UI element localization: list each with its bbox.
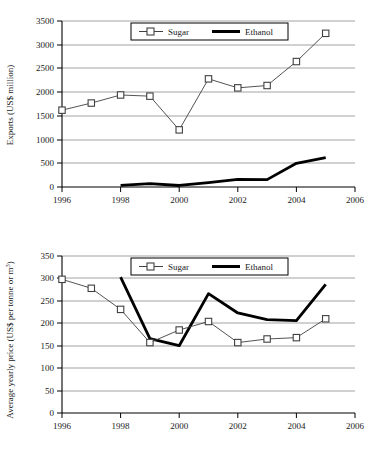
exports-series-sugar: [59, 30, 329, 133]
series-line-sugar: [62, 279, 326, 342]
exports-ytick-label-1000: 1000: [36, 135, 55, 145]
exports-legend: Sugar Ethanol: [131, 23, 288, 40]
exports-ytick-label-0: 0: [50, 182, 55, 192]
exports-xtick-label-2002: 2002: [229, 195, 247, 205]
exports-ytick-label-2000: 2000: [36, 87, 55, 97]
data-point-marker: [235, 85, 241, 91]
price-xtick-label-2000: 2000: [170, 421, 189, 431]
price-series-sugar: [59, 276, 329, 346]
exports-gridlines: [62, 21, 355, 163]
figure-two-line-charts: Exports (US$ million): [0, 0, 373, 463]
price-xtick-label-2004: 2004: [287, 421, 306, 431]
price-ytick-label-250: 250: [41, 296, 55, 306]
price-ytick-label-0: 0: [50, 408, 55, 418]
exports-series-ethanol: [121, 158, 326, 186]
exports-ytick-label-500: 500: [41, 158, 55, 168]
data-point-marker: [293, 334, 299, 340]
chart-price: Average yearly price (US$ per tonne or m…: [0, 232, 373, 463]
price-legend-ethanol-label: Ethanol: [245, 262, 273, 272]
data-point-marker: [147, 339, 153, 345]
price-legend-sugar-label: Sugar: [168, 262, 189, 272]
price-xtick-label-1996: 1996: [53, 421, 72, 431]
data-point-marker: [117, 92, 123, 98]
exports-chart-svg: Exports (US$ million): [0, 0, 373, 226]
series-line-ethanol: [121, 158, 326, 186]
data-point-marker: [205, 318, 211, 324]
exports-ytick-label-2500: 2500: [36, 63, 55, 73]
price-xtick-label-1998: 1998: [112, 421, 131, 431]
data-point-marker: [293, 58, 299, 64]
exports-xtick-label-2000: 2000: [170, 195, 189, 205]
data-point-marker: [176, 327, 182, 333]
data-point-marker: [323, 316, 329, 322]
exports-xtick-label-1998: 1998: [112, 195, 131, 205]
price-xtick-label-2006: 2006: [346, 421, 365, 431]
data-point-marker: [323, 30, 329, 36]
data-point-marker: [264, 82, 270, 88]
data-point-marker: [264, 336, 270, 342]
exports-x-ticks: [62, 187, 355, 192]
exports-xtick-label-1996: 1996: [53, 195, 72, 205]
data-point-marker: [176, 127, 182, 133]
exports-ytick-label-1500: 1500: [36, 111, 55, 121]
price-ytick-label-150: 150: [41, 341, 55, 351]
price-y-axis-title-group: Average yearly price (US$ per tonne or m…: [4, 261, 15, 418]
price-y-axis-title-close: ): [5, 261, 15, 264]
price-x-ticks: [62, 413, 355, 418]
exports-legend-sugar-label: Sugar: [168, 27, 189, 37]
price-legend-sugar-marker: [147, 263, 154, 270]
chart-exports: Exports (US$ million): [0, 0, 373, 226]
data-point-marker: [88, 285, 94, 291]
data-point-marker: [59, 276, 65, 282]
exports-legend-ethanol-label: Ethanol: [245, 27, 273, 37]
price-ytick-label-50: 50: [45, 386, 55, 396]
exports-legend-sugar-marker: [147, 28, 154, 35]
data-point-marker: [205, 76, 211, 82]
exports-ytick-label-3000: 3000: [36, 40, 55, 50]
price-y-axis-title: Average yearly price (US$ per tonne or m…: [4, 261, 15, 418]
data-point-marker: [88, 100, 94, 106]
exports-y-axis-title: Exports (US$ million): [5, 65, 15, 146]
price-legend: Sugar Ethanol: [131, 258, 288, 275]
series-line-sugar: [62, 33, 326, 130]
price-xtick-label-2002: 2002: [229, 421, 247, 431]
exports-xtick-label-2004: 2004: [287, 195, 306, 205]
price-ytick-label-200: 200: [41, 318, 55, 328]
price-ytick-label-300: 300: [41, 273, 55, 283]
data-point-marker: [147, 93, 153, 99]
data-point-marker: [59, 107, 65, 113]
exports-ytick-label-3500: 3500: [36, 16, 55, 26]
data-point-marker: [235, 339, 241, 345]
data-point-marker: [117, 306, 123, 312]
price-chart-svg: Average yearly price (US$ per tonne or m…: [0, 232, 373, 463]
price-ytick-label-100: 100: [41, 363, 55, 373]
exports-y-ticks: [57, 21, 62, 187]
price-ytick-label-350: 350: [41, 251, 55, 261]
exports-xtick-label-2006: 2006: [346, 195, 365, 205]
price-y-axis-title-main: Average yearly price (US$ per tonne or m: [5, 268, 15, 419]
